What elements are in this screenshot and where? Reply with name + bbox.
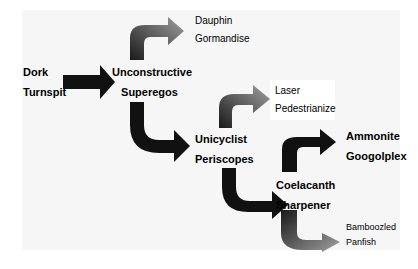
node-laser-pedestrianize: Laser Pedestrianize: [275, 82, 336, 118]
node-coelacanth-sharpener: Coelacanth Sharpener: [276, 175, 335, 215]
arrow-curve-up: [282, 129, 336, 172]
arrow-curve-down: [281, 210, 340, 252]
node-root: Dork Turnspit: [23, 62, 66, 102]
node-ammonite-googolplex: Ammonite Googolplex: [346, 126, 407, 166]
node-dauphin-gormandise: Dauphin Gormandise: [195, 12, 249, 48]
arrow-straight: [63, 65, 115, 99]
node-unicyclist-periscopes: Unicyclist Periscopes: [195, 129, 254, 169]
arrow-curve-down: [130, 102, 190, 162]
arrow-curve-up: [130, 17, 184, 60]
node-unconstructive-superegos: Unconstructive Superegos: [112, 62, 187, 102]
arrow-curve-up: [219, 85, 270, 128]
node-bamboozled-panfish: Bamboozled Panfish: [346, 220, 396, 250]
